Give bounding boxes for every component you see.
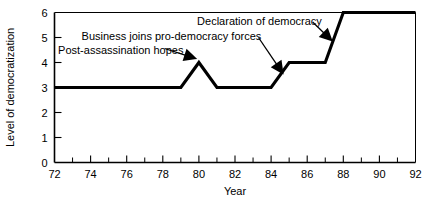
y-axis-tick-label: 5: [41, 32, 47, 44]
x-axis-title: Year: [224, 185, 247, 197]
x-axis-tick-label: 84: [265, 168, 277, 180]
annotation-arrowhead: [273, 62, 282, 72]
annotation-arrowhead: [184, 51, 194, 59]
x-axis-tick-label: 78: [157, 168, 169, 180]
y-axis-title: Level of democratization: [4, 28, 16, 147]
x-axis-major-ticks: [91, 156, 380, 163]
y-axis-tick-label: 3: [41, 82, 47, 94]
chart-annotation: Post-assassination hopes: [58, 44, 194, 60]
annotation-label: Business joins pro-democracy forces: [82, 30, 262, 42]
chart-canvas: 7274767880828486889092 0123456 Year Leve…: [0, 0, 440, 206]
annotation-leader-line: [258, 38, 276, 65]
x-axis-tick-label: 88: [337, 168, 349, 180]
x-axis-tick-label: 86: [301, 168, 313, 180]
x-axis-tick-label: 80: [193, 168, 205, 180]
x-axis-tick-labels: 7274767880828486889092: [48, 168, 421, 180]
y-axis-tick-labels: 0123456: [41, 7, 47, 169]
y-axis-tick-label: 0: [41, 157, 47, 169]
x-axis-tick-label: 72: [48, 168, 60, 180]
y-axis-tick-label: 1: [41, 132, 47, 144]
annotation-label: Post-assassination hopes: [58, 44, 184, 56]
x-axis-tick-label: 90: [373, 168, 385, 180]
x-axis-tick-label: 74: [84, 168, 96, 180]
x-axis-tick-label: 76: [121, 168, 133, 180]
annotation-label: Declaration of democracy: [197, 15, 322, 27]
x-axis-tick-label: 82: [229, 168, 241, 180]
x-axis-tick-label: 92: [409, 168, 421, 180]
y-axis-tick-label: 6: [41, 7, 47, 19]
y-axis-tick-label: 2: [41, 107, 47, 119]
democratization-line-chart: 7274767880828486889092 0123456 Year Leve…: [0, 0, 440, 206]
y-axis-tick-label: 4: [41, 57, 47, 69]
